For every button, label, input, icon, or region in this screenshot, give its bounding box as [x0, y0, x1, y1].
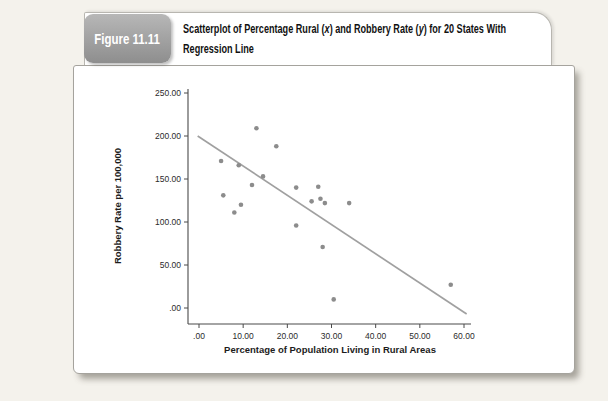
figure-title-line1: Scatterplot of Percentage Rural (x) and …: [183, 19, 506, 39]
data-point: [294, 185, 299, 190]
figure-box: Figure 11.11 Scatterplot of Percentage R…: [0, 0, 608, 401]
data-point: [219, 159, 224, 164]
data-point: [318, 196, 323, 201]
data-point: [239, 203, 244, 208]
x-tick-label: .00: [193, 331, 205, 341]
x-tick-label: 20.00: [277, 331, 299, 341]
regression-line: [198, 136, 467, 314]
data-point: [261, 174, 266, 179]
y-tick-label: 200.00: [155, 131, 181, 141]
x-tick-label: 10.00: [233, 331, 255, 341]
title-text: Scatterplot of Percentage Rural (: [183, 21, 325, 36]
data-point: [274, 144, 279, 149]
x-tick-label: 50.00: [409, 331, 431, 341]
data-point: [309, 199, 314, 204]
title-text: ) and Robbery Rate (: [330, 21, 419, 36]
data-point: [236, 163, 241, 168]
data-point: [331, 297, 336, 302]
data-point: [323, 201, 328, 206]
data-point: [254, 126, 259, 131]
data-point: [221, 193, 226, 198]
x-tick-label: 40.00: [365, 331, 387, 341]
chart-panel: .0050.00100.00150.00200.00250.00.0010.00…: [73, 65, 575, 374]
y-tick-label: 100.00: [155, 217, 181, 227]
x-tick-label: 60.00: [453, 331, 475, 341]
x-axis-title: Percentage of Population Living in Rural…: [224, 344, 436, 355]
figure-title-line2: Regression Line: [183, 39, 506, 59]
y-tick-label: 150.00: [155, 174, 181, 184]
data-point: [232, 210, 237, 215]
data-point: [320, 245, 325, 250]
y-tick-label: 50.00: [160, 260, 182, 270]
figure-badge: Figure 11.11: [84, 14, 171, 63]
figure-badge-label: Figure 11.11: [95, 31, 161, 47]
data-point: [316, 184, 321, 189]
data-point: [294, 223, 299, 228]
figure-title: Scatterplot of Percentage Rural (x) and …: [183, 19, 506, 59]
chart-svg: .0050.00100.00150.00200.00250.00.0010.00…: [74, 66, 572, 371]
data-point: [347, 201, 352, 206]
y-axis-title: Robbery Rate per 100,000: [112, 148, 123, 264]
y-tick-label: .00: [169, 303, 181, 313]
data-point: [448, 282, 453, 287]
x-tick-label: 30.00: [321, 331, 343, 341]
title-text: ) for 20 States With: [424, 21, 506, 36]
data-point: [250, 183, 255, 188]
y-tick-label: 250.00: [155, 88, 181, 98]
